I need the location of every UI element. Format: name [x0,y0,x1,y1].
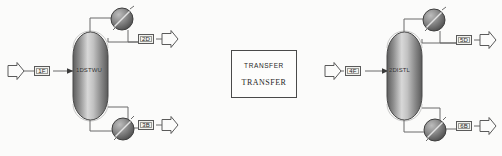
transfer-note-line-1: TRANSFER [244,62,284,69]
feed-arrow-icon[interactable] [8,63,24,80]
stream-tag-feed-left[interactable]: 1F [34,66,50,76]
stream-tag-bottoms-left[interactable]: 3B [138,120,154,130]
reboiler-exchanger-icon[interactable] [424,117,446,141]
distillation-column-icon[interactable] [73,31,108,121]
flowsheet-canvas: 1F 2D 3B 1DSTWU 4F 5D 6B 2DISTL TRANSFER… [0,0,502,156]
condenser-exchanger-icon[interactable] [423,7,446,31]
bottoms-line [404,120,424,132]
stream-tag-feed-right[interactable]: 4F [345,66,361,76]
stream-tag-bottoms-right[interactable]: 6B [456,121,472,131]
stream-tag-distillate-left[interactable]: 2D [138,34,154,44]
stream-tag-distillate-right[interactable]: 5D [456,35,472,45]
distillation-column-icon[interactable] [387,31,422,121]
distillate-arrow-icon[interactable] [162,31,178,48]
distillate-arrow-icon[interactable] [480,32,496,49]
bottoms-arrow-icon[interactable] [480,118,496,135]
block-label-column-left: 1DSTWU [76,66,102,74]
bottoms-arrow-icon[interactable] [162,117,178,134]
bottoms-line [90,120,113,131]
reboiler-exchanger-icon[interactable] [112,116,134,140]
transfer-note-box[interactable]: TRANSFER TRANSFER [231,50,297,98]
transfer-note-line-2: TRANSFER [242,78,287,87]
feed-arrow-icon[interactable] [325,63,341,80]
condenser-exchanger-icon[interactable] [111,6,134,30]
block-label-column-right: 2DISTL [389,66,410,74]
